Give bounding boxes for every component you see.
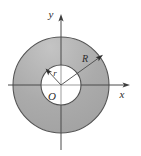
x-axis-label: x [119,88,125,100]
inner-radius-label: r [53,68,57,78]
figure-container: y x O R r [0,0,141,156]
y-axis-label: y [48,8,54,20]
outer-radius-label: R [81,53,88,64]
annulus-diagram-svg: y x O R r [0,0,141,156]
origin-label: O [48,90,56,102]
